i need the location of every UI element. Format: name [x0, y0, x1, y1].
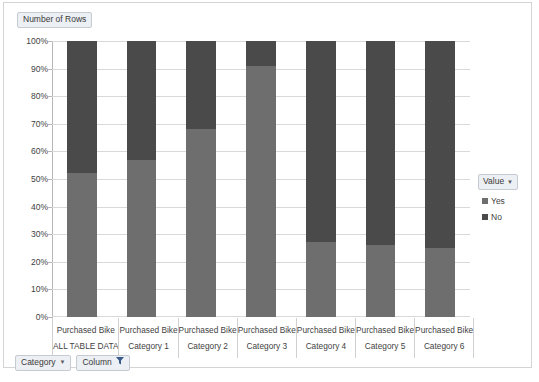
chevron-down-icon[interactable]: ▼ [507, 177, 513, 187]
x-axis-category: Purchased BikeALL TABLE DATA [52, 318, 118, 358]
y-axis-tick-label: 20% [8, 257, 48, 267]
bar-segment-yes[interactable] [186, 129, 216, 317]
x-axis-category-line1: Purchased Bike [119, 322, 177, 338]
bar-segment-yes[interactable] [366, 245, 396, 317]
x-axis-category-line2: Category 5 [365, 338, 406, 354]
x-axis-category: Purchased BikeCategory 5 [355, 318, 414, 358]
bar-segment-no[interactable] [246, 41, 276, 66]
y-axis-tick-label: 80% [8, 91, 48, 101]
x-axis-category-line2: ALL TABLE DATA [53, 338, 118, 354]
chart-title-pill[interactable]: Number of Rows [17, 12, 92, 28]
bar-column[interactable] [306, 41, 336, 317]
x-axis-category-line1: Purchased Bike [415, 322, 473, 338]
bar-segment-yes[interactable] [425, 248, 455, 317]
category-filter-button[interactable]: Category ▼ [15, 355, 71, 371]
y-axis-tick-label: 90% [8, 64, 48, 74]
x-axis-category: Purchased BikeCategory 4 [296, 318, 355, 358]
legend-entry[interactable]: No [478, 212, 530, 222]
x-axis-category-line1: Purchased Bike [179, 322, 237, 338]
legend-title-pill[interactable]: Value▼ [478, 174, 518, 190]
chevron-down-icon[interactable]: ▼ [60, 357, 66, 368]
column-filter-label: Column [82, 357, 111, 368]
y-axis-tick-label: 50% [8, 174, 48, 184]
x-axis-category-line2: Category 2 [187, 338, 228, 354]
bar-segment-no[interactable] [127, 41, 157, 160]
y-axis-tick-label: 10% [8, 284, 48, 294]
x-axis-category-line1: Purchased Bike [57, 322, 115, 338]
chart-legend: Value▼ YesNo [478, 170, 530, 222]
legend-entries: YesNo [478, 196, 530, 222]
x-axis-category-line2: Category 1 [128, 338, 169, 354]
bar-segment-no[interactable] [366, 41, 396, 245]
bar-segment-yes[interactable] [246, 66, 276, 317]
chart-frame: Number of Rows 100%90%80%70%60%50%40%30%… [3, 2, 532, 368]
legend-entry-label: Yes [491, 196, 505, 206]
chart-filter-toolbar: Category ▼ Column [15, 355, 135, 371]
legend-entry[interactable]: Yes [478, 196, 530, 206]
x-axis-category: Purchased BikeCategory 1 [118, 318, 177, 358]
x-axis-category-line1: Purchased Bike [356, 322, 414, 338]
x-axis-category: Purchased BikeCategory 2 [178, 318, 237, 358]
x-axis-category: Purchased BikeCategory 3 [237, 318, 296, 358]
y-axis-tick-label: 0% [8, 312, 48, 322]
filter-icon[interactable] [116, 357, 124, 368]
x-axis: Purchased BikeALL TABLE DATAPurchased Bi… [52, 318, 470, 358]
bar-segment-yes[interactable] [127, 160, 157, 317]
column-filter-button[interactable]: Column [76, 355, 129, 371]
legend-swatch [482, 198, 488, 204]
bar-column[interactable] [186, 41, 216, 317]
y-axis-tick-label: 40% [8, 202, 48, 212]
bar-segment-no[interactable] [67, 41, 97, 173]
plot-area [52, 41, 470, 317]
category-filter-label: Category [21, 357, 56, 368]
bar-column[interactable] [366, 41, 396, 317]
chart-title-label: Number of Rows [23, 14, 86, 24]
x-axis-category: Purchased BikeCategory 6 [414, 318, 474, 358]
y-axis-tick-label: 30% [8, 229, 48, 239]
x-axis-category-line2: Category 3 [247, 338, 288, 354]
bar-segment-no[interactable] [306, 41, 336, 242]
bar-segment-yes[interactable] [306, 242, 336, 317]
bar-column[interactable] [127, 41, 157, 317]
bar-column[interactable] [246, 41, 276, 317]
y-axis-tick-label: 60% [8, 146, 48, 156]
legend-swatch [482, 214, 488, 220]
bar-segment-no[interactable] [425, 41, 455, 248]
bar-segment-no[interactable] [186, 41, 216, 129]
bar-column[interactable] [67, 41, 97, 317]
x-axis-category-line1: Purchased Bike [297, 322, 355, 338]
x-axis-category-line2: Category 6 [424, 338, 465, 354]
x-axis-category-line2: Category 4 [306, 338, 347, 354]
y-axis: 100%90%80%70%60%50%40%30%20%10%0% [4, 41, 48, 317]
y-axis-tick-label: 100% [8, 36, 48, 46]
legend-entry-label: No [491, 212, 502, 222]
y-axis-tick-label: 70% [8, 119, 48, 129]
x-axis-category-line1: Purchased Bike [238, 322, 296, 338]
bar-segment-yes[interactable] [67, 173, 97, 317]
legend-title-label: Value [483, 176, 504, 186]
bar-column[interactable] [425, 41, 455, 317]
